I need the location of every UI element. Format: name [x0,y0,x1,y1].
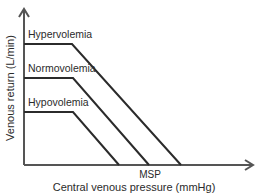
y-axis-label: Venous return (L/min) [4,35,16,141]
label-msp: MSP [139,169,161,180]
curve-hypovolemia [24,112,119,165]
label-hypovolemia: Hypovolemia [28,96,89,108]
label-normovolemia: Normovolemia [28,62,96,74]
label-hypervolemia: Hypervolemia [28,28,92,40]
x-axis-label: Central venous pressure (mmHg) [53,181,216,193]
venous-return-diagram: Hypervolemia Normovolemia Hypovolemia MS… [0,0,263,194]
curve-normovolemia [24,78,149,165]
